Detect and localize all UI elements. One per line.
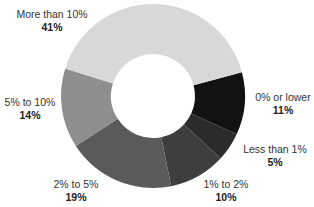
label-value: 5%	[237, 156, 313, 169]
label-category: 2% to 5%	[50, 178, 102, 191]
label-0-or-lower: 0% or lower 11%	[253, 91, 313, 117]
label-category: 1% to 2%	[200, 178, 252, 191]
label-value: 10%	[200, 191, 252, 204]
label-2-to-5: 2% to 5% 19%	[50, 178, 102, 204]
label-value: 14%	[0, 109, 60, 122]
label-value: 19%	[50, 191, 102, 204]
label-category: More than 10%	[8, 8, 96, 21]
label-value: 41%	[8, 21, 96, 34]
label-category: Less than 1%	[237, 143, 313, 156]
label-category: 5% to 10%	[0, 96, 60, 109]
label-category: 0% or lower	[253, 91, 313, 104]
label-1-to-2: 1% to 2% 10%	[200, 178, 252, 204]
label-more-than-10: More than 10% 41%	[8, 8, 96, 34]
label-less-than-1: Less than 1% 5%	[237, 143, 313, 169]
label-5-to-10: 5% to 10% 14%	[0, 96, 60, 122]
label-value: 11%	[253, 104, 313, 117]
